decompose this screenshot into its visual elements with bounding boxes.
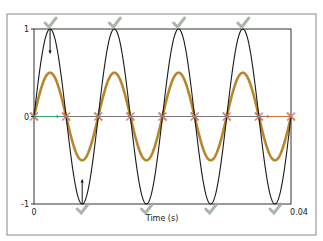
x-tick-label: 0 [31,208,36,217]
chart: 10-100.04 Time (s) [0,0,323,241]
y-tick-label: 1 [24,25,29,34]
x-axis-title: Time (s) [145,214,179,223]
y-tick-label: -1 [21,200,29,209]
y-tick-label: 0 [24,113,29,122]
x-tick-label: 0.04 [290,208,308,217]
